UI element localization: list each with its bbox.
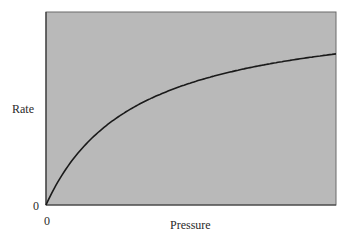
x-origin-tick-label: 0 — [44, 214, 50, 229]
chart-canvas — [0, 0, 348, 237]
y-origin-tick-label: 0 — [33, 199, 39, 214]
x-axis-label: Pressure — [170, 218, 211, 233]
plot-area — [46, 12, 336, 205]
y-axis-label: Rate — [12, 102, 34, 117]
